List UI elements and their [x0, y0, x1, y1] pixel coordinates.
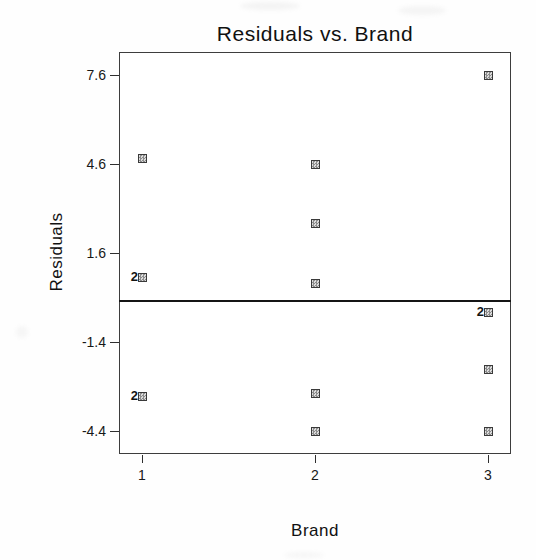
data-point-marker — [138, 392, 147, 401]
data-point-marker — [311, 389, 320, 398]
scan-artifact — [398, 6, 446, 15]
data-point-marker — [484, 71, 493, 80]
x-tick-label: 2 — [295, 467, 335, 483]
data-point-marker — [311, 279, 320, 288]
data-point-marker — [484, 427, 493, 436]
overlap-count-label: 2 — [468, 304, 484, 319]
y-tick-mark — [110, 164, 119, 165]
x-axis-title: Brand — [119, 521, 511, 541]
x-tick-label: 3 — [468, 467, 508, 483]
y-tick-label: -4.4 — [40, 423, 106, 439]
x-tick-mark — [315, 455, 316, 463]
data-point-marker — [484, 365, 493, 374]
overlap-count-label: 2 — [122, 269, 138, 284]
y-tick-mark — [110, 431, 119, 432]
x-tick-mark — [142, 455, 143, 463]
residuals-vs-brand-chart: Residuals vs. Brand 7.64.61.6-1.4-4.4 12… — [0, 0, 536, 560]
data-point-marker — [138, 154, 147, 163]
y-tick-label: 4.6 — [40, 156, 106, 172]
data-point-marker — [311, 219, 320, 228]
y-axis-title: Residuals — [47, 212, 67, 291]
scan-artifact — [284, 552, 324, 558]
data-point-marker — [311, 160, 320, 169]
x-tick-mark — [488, 455, 489, 463]
y-tick-mark — [110, 342, 119, 343]
y-tick-label: 7.6 — [40, 67, 106, 83]
data-point-marker — [138, 273, 147, 282]
scan-artifact — [16, 326, 28, 338]
chart-title: Residuals vs. Brand — [119, 22, 511, 46]
data-point-marker — [484, 308, 493, 317]
overlap-count-label: 2 — [122, 388, 138, 403]
zero-reference-line — [119, 300, 511, 302]
data-point-marker — [311, 427, 320, 436]
x-tick-label: 1 — [122, 467, 162, 483]
y-tick-label: -1.4 — [40, 334, 106, 350]
y-tick-mark — [110, 253, 119, 254]
scan-artifact — [240, 2, 300, 10]
y-tick-mark — [110, 75, 119, 76]
